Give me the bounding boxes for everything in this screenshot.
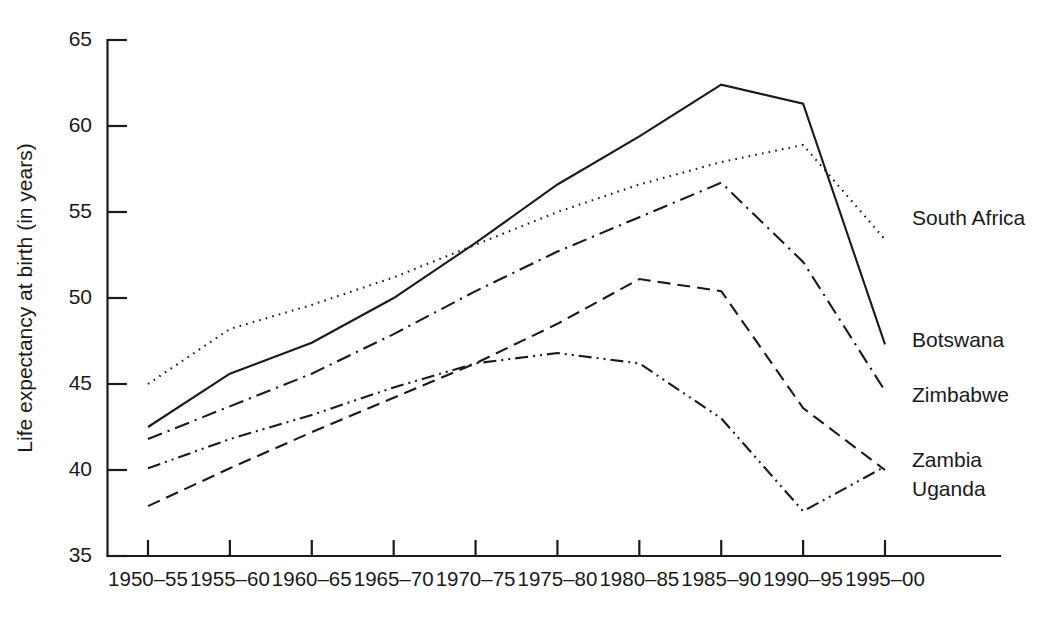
y-tick-label-50: 50 — [69, 285, 92, 308]
series-line-zambia — [148, 279, 885, 506]
series-label-uganda: Uganda — [912, 477, 986, 500]
data-series-group — [148, 85, 885, 512]
x-tick-labels: 1950–551955–601960–651965–701970–751975–… — [108, 567, 925, 590]
x-tick-label-8: 1990–95 — [763, 567, 843, 590]
chart-canvas: 35404550556065 Life expectancy at birth … — [0, 0, 1044, 618]
y-tick-label-65: 65 — [69, 27, 92, 50]
x-tick-label-1: 1955–60 — [190, 567, 270, 590]
y-tick-marks — [108, 40, 128, 556]
x-tick-label-5: 1975–80 — [518, 567, 598, 590]
series-line-uganda — [148, 353, 885, 511]
series-line-botswana — [148, 85, 885, 427]
series-label-zimbabwe: Zimbabwe — [912, 383, 1009, 406]
y-tick-labels: 35404550556065 — [69, 27, 92, 566]
series-label-south-africa: South Africa — [912, 206, 1026, 229]
series-line-zimbabwe — [148, 183, 885, 439]
y-axis-title: Life expectancy at birth (in years) — [13, 143, 36, 452]
y-tick-label-40: 40 — [69, 457, 92, 480]
x-tick-label-9: 1995–00 — [845, 567, 925, 590]
x-tick-label-4: 1970–75 — [436, 567, 516, 590]
y-tick-label-55: 55 — [69, 199, 92, 222]
y-tick-label-35: 35 — [69, 543, 92, 566]
series-label-botswana: Botswana — [912, 328, 1005, 351]
series-line-south-africa — [148, 145, 885, 384]
x-tick-marks — [148, 540, 885, 556]
series-label-zambia: Zambia — [912, 448, 982, 471]
x-tick-label-0: 1950–55 — [108, 567, 188, 590]
life-expectancy-line-chart: 35404550556065 Life expectancy at birth … — [0, 0, 1044, 618]
y-tick-label-45: 45 — [69, 371, 92, 394]
x-axis-group: 1950–551955–601960–651965–701970–751975–… — [108, 540, 1001, 590]
x-tick-label-2: 1960–65 — [272, 567, 352, 590]
y-tick-label-60: 60 — [69, 113, 92, 136]
x-tick-label-3: 1965–70 — [354, 567, 434, 590]
x-tick-label-7: 1985–90 — [681, 567, 761, 590]
x-tick-label-6: 1980–85 — [599, 567, 679, 590]
y-axis-group: 35404550556065 Life expectancy at birth … — [13, 27, 127, 566]
series-inline-labels: South AfricaBotswanaZimbabweZambiaUganda — [912, 206, 1026, 500]
